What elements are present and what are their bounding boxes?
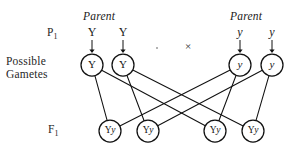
cross-diagram-canvas: P1 Possible Gametes F1 Parent Parent × Y… bbox=[0, 0, 297, 146]
parent-title-left: Parent bbox=[83, 10, 115, 22]
row-label-p1-letter: P bbox=[47, 26, 54, 38]
row-label-f1-subscript: 1 bbox=[55, 129, 59, 138]
fertilization-line bbox=[127, 75, 144, 120]
fertilization-line bbox=[95, 76, 107, 121]
fertilization-line bbox=[133, 70, 243, 126]
top-allele-letter-3: y bbox=[262, 25, 282, 40]
node-circles-group bbox=[81, 54, 283, 142]
fertilization-line bbox=[102, 70, 206, 126]
row-label-f1: F1 bbox=[48, 123, 59, 141]
top-allele-letter-0: Y bbox=[82, 25, 102, 40]
fertilization-lines-group bbox=[95, 70, 269, 126]
row-label-p1: P1 bbox=[47, 26, 58, 44]
scan-speck bbox=[156, 47, 158, 49]
offspring-node-circle bbox=[242, 120, 264, 142]
row-label-f1-letter: F bbox=[48, 123, 55, 135]
cross-symbol: × bbox=[181, 40, 195, 52]
parent-title-right: Parent bbox=[230, 10, 262, 22]
fertilization-line bbox=[219, 75, 236, 120]
row-label-gametes-line1: Possible bbox=[6, 55, 48, 68]
fertilization-line bbox=[120, 70, 230, 126]
offspring-node-circle bbox=[137, 120, 159, 142]
row-label-possible-gametes: Possible Gametes bbox=[6, 55, 48, 80]
offspring-node-circle bbox=[204, 120, 226, 142]
row-label-p1-subscript: 1 bbox=[54, 32, 58, 41]
offspring-node-circle bbox=[99, 120, 121, 142]
top-allele-letter-1: Y bbox=[113, 25, 133, 40]
parent-down-arrow-icon bbox=[269, 40, 274, 53]
gamete-node-circle bbox=[112, 54, 134, 76]
fertilization-line bbox=[158, 70, 263, 126]
parent-down-arrow-icon bbox=[89, 40, 94, 53]
parent-down-arrow-icon bbox=[237, 40, 242, 53]
top-allele-letter-2: y bbox=[230, 25, 250, 40]
gamete-node-circle bbox=[261, 54, 283, 76]
row-label-gametes-line2: Gametes bbox=[6, 68, 48, 81]
gamete-node-circle bbox=[81, 54, 103, 76]
gamete-node-circle bbox=[229, 54, 251, 76]
parent-down-arrow-icon bbox=[120, 40, 125, 53]
fertilization-line bbox=[256, 76, 269, 121]
